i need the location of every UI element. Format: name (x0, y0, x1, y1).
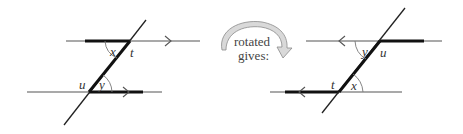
alternate-angles-diagram: x t u y rotated gives: y u t x (0, 0, 463, 134)
left-label-u: u (79, 77, 86, 92)
left-label-y: y (97, 77, 105, 92)
right-label-y: y (360, 44, 368, 59)
right-figure: y u t x (270, 8, 442, 113)
left-label-x: x (109, 44, 116, 59)
right-label-x: x (350, 78, 357, 93)
right-label-t: t (331, 77, 335, 92)
right-label-u: u (380, 45, 387, 60)
rotation-indicator: rotated gives: (222, 22, 292, 63)
left-label-t: t (130, 45, 134, 60)
rotation-caption-line1: rotated (234, 34, 271, 49)
right-transversal-thick-segment (339, 41, 380, 92)
rotation-caption-line2: gives: (238, 48, 269, 63)
left-figure: x t u y (27, 20, 200, 125)
